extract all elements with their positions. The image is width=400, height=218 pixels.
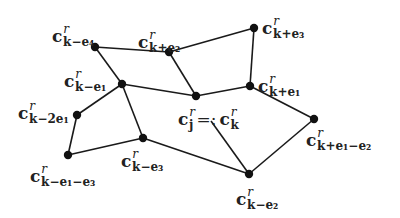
label-subscript: k — [231, 118, 239, 132]
edge-k-2e1-to-k-e1-e3 — [68, 115, 77, 155]
label-base: c — [52, 26, 62, 46]
label-subscript: k−e₁−e₃ — [41, 175, 95, 189]
label-superscript: r — [63, 22, 69, 36]
edge-k+e3-to-k+e1 — [250, 28, 254, 86]
node-k-e1-e3 — [64, 151, 72, 159]
node-k-e3 — [139, 134, 147, 142]
label-definition-sign: =: — [196, 109, 216, 129]
label-subscript: k+e₃ — [273, 27, 304, 41]
label-superscript: r — [247, 185, 253, 199]
label-superscript: r — [273, 14, 279, 28]
node-k+e1-e2 — [310, 115, 318, 123]
label-k+e1-e2: crk+e₁−e₂ — [306, 132, 371, 149]
label-subscript: k+e₂ — [149, 41, 180, 55]
label-k-2e1: crk−2e₁ — [18, 105, 69, 122]
label-base: c — [64, 71, 74, 91]
label-base: c — [30, 166, 40, 186]
label-subscript: j — [189, 118, 193, 132]
edge-k+e1-e2-to-k-e2 — [249, 119, 314, 174]
label-k+e2: crk+e₂ — [138, 34, 180, 51]
pointer-line-0 — [211, 121, 249, 174]
node-k+e1 — [246, 82, 254, 90]
label-base: c — [306, 130, 316, 150]
label-k-e4: crk−e₄ — [52, 28, 94, 45]
label-k: crj=:crk — [178, 111, 239, 128]
label-superscript: r — [269, 72, 275, 86]
label-base: c — [258, 76, 268, 96]
label-k-e2: crk−e₂ — [236, 191, 278, 208]
label-base: c — [178, 109, 188, 129]
node-k+e3 — [250, 24, 258, 32]
label-superscript: r — [75, 67, 81, 81]
label-base: c — [236, 189, 246, 209]
label-subscript: k−e₄ — [63, 35, 94, 49]
label-subscript: k−2e₁ — [29, 112, 69, 126]
label-k+e3: crk+e₃ — [262, 20, 304, 37]
label-base: c — [18, 103, 28, 123]
label-superscript: r — [189, 105, 195, 119]
label-superscript: r — [231, 105, 237, 119]
label-superscript: r — [317, 126, 323, 140]
label-base: c — [121, 151, 131, 171]
node-k-e1 — [118, 80, 126, 88]
node-k-e2 — [245, 170, 253, 178]
edge-k+e2-to-k+e3 — [169, 28, 254, 52]
label-k-e3: crk−e₃ — [121, 153, 163, 170]
label-base: c — [138, 32, 148, 52]
edge-k-e1-to-k — [122, 84, 196, 96]
label-superscript: r — [149, 28, 155, 42]
node-k-2e1 — [73, 111, 81, 119]
label-base: c — [262, 18, 272, 38]
label-base: c — [219, 109, 229, 129]
label-subscript: k−e₃ — [132, 160, 163, 174]
label-k-e1-e3: crk−e₁−e₃ — [30, 168, 95, 185]
label-k-e1: crk−e₁ — [64, 73, 106, 90]
label-superscript: r — [132, 147, 138, 161]
edge-k+e2-to-k — [169, 52, 196, 96]
label-k+e1: crk+e₁ — [258, 78, 300, 95]
label-subscript: k+e₁−e₂ — [317, 139, 371, 153]
edge-k-e1-to-k-e3 — [122, 84, 143, 138]
edge-k-to-k+e1 — [196, 86, 250, 96]
label-superscript: r — [29, 99, 35, 113]
label-subscript: k+e₁ — [269, 85, 300, 99]
node-k — [192, 92, 200, 100]
label-subscript: k−e₁ — [75, 80, 106, 94]
label-superscript: r — [41, 162, 47, 176]
label-subscript: k−e₂ — [247, 198, 278, 212]
